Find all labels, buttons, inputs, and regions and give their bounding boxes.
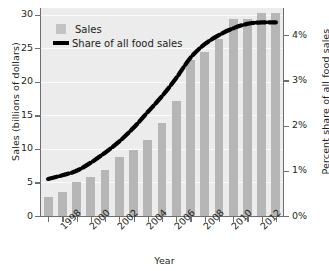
y-axis-right-tick (284, 216, 289, 217)
y-axis-right-tick-label: 1% (292, 164, 307, 175)
y-axis-left-tick (35, 182, 40, 183)
y-axis-right-tick-label: 4% (292, 29, 307, 40)
y-axis-left-tick (35, 48, 40, 49)
y-axis-left-tick (35, 216, 40, 217)
y-axis-right-line (283, 8, 284, 217)
legend-item-sales: Sales (56, 22, 182, 36)
y-axis-left-tick-label: 5 (27, 176, 33, 187)
y-axis-right-tick-label: 3% (292, 74, 307, 85)
x-axis-tick (190, 217, 191, 222)
x-axis-tick (247, 217, 248, 222)
y-axis-left-tick-label: 0 (27, 210, 33, 221)
y-axis-left-title: Sales (billions of dollars) (10, 17, 21, 187)
x-axis-tick (48, 217, 49, 222)
y-axis-left-tick (35, 115, 40, 116)
y-axis-left-line (40, 8, 41, 217)
y-axis-right-tick (284, 171, 289, 172)
x-axis-tick (162, 217, 163, 222)
y-axis-right-title: Percent share of all food sales (320, 17, 329, 187)
x-axis-tick (134, 217, 135, 222)
y-axis-left-tick (35, 15, 40, 16)
y-axis-left-tick-label: 15 (21, 109, 33, 120)
y-axis-left-tick (35, 149, 40, 150)
legend-swatch-line-icon (53, 41, 69, 45)
y-axis-right-tick-label: 2% (292, 119, 307, 130)
chart-container: 0510152025300%1%2%3%4%199820002002200420… (0, 0, 329, 271)
legend: Sales Share of all food sales (56, 22, 182, 50)
y-axis-right-tick (284, 126, 289, 127)
legend-label-sales: Sales (75, 24, 102, 35)
y-axis-left-tick-label: 20 (21, 75, 33, 86)
y-axis-left-tick-label: 10 (21, 142, 33, 153)
y-axis-left-tick-label: 30 (21, 8, 33, 19)
y-axis-right-tick-label: 0% (292, 210, 307, 221)
x-axis-tick (105, 217, 106, 222)
y-axis-left-tick (35, 82, 40, 83)
legend-label-share-of-all-food-sales: Share of all food sales (72, 38, 182, 49)
x-axis-tick (219, 217, 220, 222)
x-axis-tick (276, 217, 277, 222)
legend-item-share-of-all-food-sales: Share of all food sales (56, 36, 182, 50)
x-axis-tick (77, 217, 78, 222)
y-axis-left-tick-label: 25 (21, 42, 33, 53)
x-axis-title: Year (0, 255, 329, 266)
y-axis-right-tick (284, 80, 289, 81)
legend-swatch-square-icon (56, 24, 66, 34)
y-axis-right-tick (284, 35, 289, 36)
